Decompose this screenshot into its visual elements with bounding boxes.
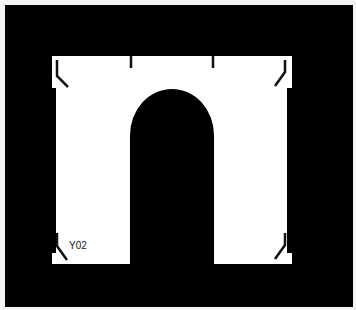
arch-template [0,0,356,310]
part-label: Y02 [69,240,87,251]
template-panel [52,56,292,264]
